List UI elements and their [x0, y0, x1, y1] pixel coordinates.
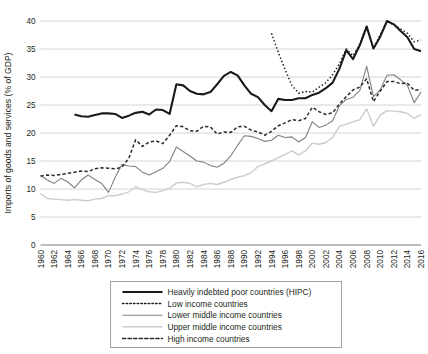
y-tick-label: 0 [31, 241, 36, 250]
x-tick-label: 1972 [118, 250, 127, 269]
legend-label-4: High income countries [168, 334, 250, 344]
x-tick-label: 1990 [240, 250, 249, 269]
y-axis-tick-labels: 0510152025303540 [26, 17, 36, 250]
x-tick-label: 1974 [132, 250, 141, 269]
x-tick-label: 1986 [213, 250, 222, 269]
legend-label-1: Low income countries [168, 299, 248, 309]
x-tick-label: 2004 [335, 250, 344, 269]
y-tick-label: 30 [26, 73, 36, 82]
x-tick-label: 2016 [417, 250, 426, 269]
x-tick-label: 2010 [376, 250, 385, 269]
x-tick-label: 2014 [403, 250, 412, 269]
series-line-3 [41, 109, 422, 201]
x-tick-label: 1988 [227, 250, 236, 269]
line-chart: 0510152025303540 19601962196419661968197… [0, 0, 428, 354]
chart-figure: 0510152025303540 19601962196419661968197… [0, 0, 428, 354]
y-tick-label: 25 [26, 101, 36, 110]
x-tick-label: 1996 [281, 250, 290, 269]
x-tick-label: 1968 [91, 250, 100, 269]
y-tick-label: 35 [26, 45, 36, 54]
x-tick-label: 2006 [349, 250, 358, 269]
x-tick-label: 1978 [159, 250, 168, 269]
legend-label-0: Heavily indebted poor countries (HIPC) [168, 287, 312, 297]
x-tick-label: 2008 [363, 250, 372, 269]
y-tick-label: 40 [26, 17, 36, 26]
x-tick-label: 2012 [390, 250, 399, 269]
y-tick-label: 5 [31, 213, 36, 222]
x-tick-label: 1964 [64, 250, 73, 269]
x-tick-label: 1982 [186, 250, 195, 269]
x-tick-label: 1966 [77, 250, 86, 269]
x-tick-label: 1980 [172, 250, 181, 269]
x-axis-tick-labels: 1960196219641966196819701972197419761978… [37, 250, 427, 269]
series-line-4 [41, 79, 422, 176]
y-tick-label: 20 [26, 129, 36, 138]
y-axis-title: Imports of goods and services (% of GDP) [3, 52, 13, 213]
x-tick-label: 1998 [295, 250, 304, 269]
series-line-2 [41, 66, 422, 192]
legend-label-2: Lower middle income countries [168, 310, 282, 320]
x-tick-label: 1992 [254, 250, 263, 269]
x-tick-label: 1970 [104, 250, 113, 269]
x-tick-label: 1976 [145, 250, 154, 269]
chart-legend: Heavily indebted poor countries (HIPC)Lo… [111, 282, 342, 348]
x-tick-label: 2000 [308, 250, 317, 269]
x-tick-label: 2002 [322, 250, 331, 269]
x-tick-label: 1960 [37, 250, 46, 269]
data-series-group [41, 21, 422, 201]
x-tick-label: 1994 [268, 250, 277, 269]
y-tick-label: 10 [26, 185, 36, 194]
y-tick-label: 15 [26, 157, 36, 166]
legend-label-3: Upper middle income countries [168, 322, 282, 332]
x-tick-label: 1984 [200, 250, 209, 269]
series-line-0 [74, 21, 421, 118]
x-tick-label: 1962 [50, 250, 59, 269]
